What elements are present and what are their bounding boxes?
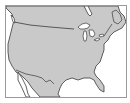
map-container (0, 0, 130, 103)
us-map (0, 0, 130, 103)
lake-michigan (83, 31, 87, 41)
